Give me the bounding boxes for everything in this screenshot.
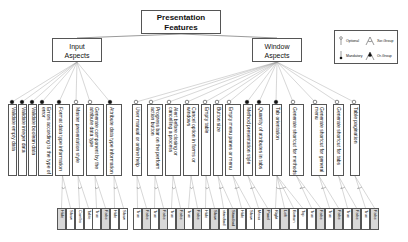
feature-node: Empty table: [201, 104, 211, 176]
legend: Optional Mandatory Xor-Group Or-Group: [334, 30, 398, 64]
leaf-node: Show: [66, 208, 75, 230]
legend-or-group-label: Or-Group: [377, 54, 392, 58]
feature-label: User manual or online help: [133, 105, 141, 176]
xor-group-icon: [341, 187, 345, 189]
feature-node: Cancel option in forms or windows: [183, 104, 199, 176]
or-group-icon: [365, 51, 375, 60]
xor-group-icon: [190, 187, 193, 189]
leaf-label: False: [102, 209, 108, 220]
leaf-node: True: [361, 208, 370, 230]
legend-mandatory: Mandatory: [338, 51, 363, 60]
leaf-node: Hide: [201, 208, 210, 230]
feature-node: Generate component by the attribute data…: [86, 104, 104, 176]
feature-node: Validate boolean data: [28, 104, 37, 176]
leaf-node: True: [133, 208, 142, 230]
feature-label: Method presentation style: [244, 105, 252, 176]
leaf-label: True: [151, 209, 157, 218]
node-input-aspects: Input Aspects: [52, 38, 102, 62]
root-node-presentation-features: Presentation Features: [141, 10, 221, 34]
xor-group-icon: [206, 187, 209, 189]
feature-label: Generate component by the attribute data…: [87, 105, 100, 176]
feature-label: Quantity of attributes in tabs: [256, 105, 264, 176]
feature-node: Format data type information: [55, 104, 70, 176]
feature-node: Master presentation style: [72, 104, 84, 176]
feature-node: Progress bar on the perform action butto…: [147, 104, 163, 176]
root-label-line2: Features: [142, 23, 220, 33]
legend-or-group: Or-Group: [365, 51, 392, 60]
leaf-node: True: [167, 208, 176, 230]
mandatory-marker-icon: [338, 51, 344, 60]
leaf-label: Show: [120, 209, 126, 220]
xor-group-icon: [78, 187, 81, 189]
feature-label: Empty menu panes or menu: [226, 105, 234, 176]
feature-node: Tab orientation: [272, 104, 282, 176]
xor-group-icon: [321, 187, 325, 189]
legend-xor-group: Xor-Group: [365, 36, 393, 45]
feature-node: Errors according to the type of error: [38, 104, 53, 176]
feature-label: Empty table: [202, 105, 210, 176]
feature-node: Generate shortcut for general menu: [311, 104, 327, 176]
feature-label: Errors according to the type of error: [39, 105, 52, 176]
input-aspects-label-line1: Input: [53, 42, 101, 51]
xor-group-icon: [155, 187, 158, 189]
feature-node: Quantity of attributes in tabs: [255, 104, 270, 176]
leaf-node: No standard: [219, 208, 228, 230]
leaf-label: True: [308, 209, 314, 218]
xor-group-icon: [95, 187, 98, 189]
leaf-label: False: [317, 209, 323, 220]
leaf-label: True: [344, 209, 350, 218]
legend-xor-group-label: Xor-Group: [377, 39, 393, 43]
xor-group-icon: [365, 36, 375, 45]
feature-label: Table pagination: [351, 105, 359, 176]
leaf-node: False: [334, 208, 343, 230]
leaf-label: True: [93, 209, 99, 218]
leaf-label: Top: [299, 209, 305, 216]
feature-label: Generate shortcut for general menu: [312, 105, 325, 176]
feature-label: Tab orientation: [273, 105, 281, 176]
xor-group-icon: [276, 187, 285, 189]
leaf-label: Combo: [76, 209, 82, 223]
feature-node: Attribute data type information: [106, 104, 122, 176]
feature-node: Alert before closing or cancelling a pro…: [165, 104, 181, 176]
leaf-label: False: [194, 209, 200, 220]
leaf-node: Right: [271, 208, 280, 230]
leaf-label: True: [362, 209, 368, 218]
xor-group-icon: [137, 187, 140, 189]
feature-label: Alert before closing or cancelling a pro…: [166, 105, 179, 176]
leaf-label: Bottom: [290, 209, 296, 223]
leaf-label: False: [353, 209, 359, 220]
leaf-node: Show: [119, 208, 128, 230]
leaf-label: No standard: [220, 209, 228, 229]
feature-node: Button size: [213, 104, 223, 176]
leaf-node: Hide: [110, 208, 119, 230]
leaf-label: Right: [272, 209, 278, 219]
leaf-label: Panel: [264, 209, 270, 220]
leaf-node: Standard: [228, 208, 237, 230]
legend-mandatory-label: Mandatory: [346, 54, 363, 58]
feature-label: Validate empty data: [9, 105, 17, 176]
xor-group-icon: [172, 187, 175, 189]
feature-node: Empty menu panes or menu: [225, 104, 241, 176]
leaf-label: Left: [281, 209, 287, 217]
leaf-label: Show: [67, 209, 73, 220]
leaf-node: Hide: [57, 208, 66, 230]
leaf-node: False: [352, 208, 361, 230]
leaf-label: True: [185, 209, 191, 218]
leaf-node: Menu: [254, 208, 263, 230]
leaf-node: True: [150, 208, 159, 230]
leaf-label: Standard: [229, 209, 235, 226]
leaf-label: Hide: [202, 209, 208, 218]
feature-node: Table pagination: [350, 104, 360, 176]
xor-group-icon: [235, 187, 239, 189]
feature-label: Button size: [214, 105, 222, 176]
root-label-line1: Presentation: [142, 13, 220, 23]
leaf-label: Show: [211, 209, 217, 220]
leaf-label: False: [160, 209, 166, 220]
leaf-node: Hide: [237, 208, 246, 230]
leaf-label: True: [134, 209, 140, 218]
feature-node: Generate shortcut for methods: [289, 104, 304, 176]
leaf-node: Top: [298, 208, 307, 230]
leaf-node: Bottom: [289, 208, 298, 230]
leaf-label: Menu: [255, 209, 261, 220]
feature-model-diagram: Presentation Features Input Aspects Wind…: [0, 0, 408, 242]
